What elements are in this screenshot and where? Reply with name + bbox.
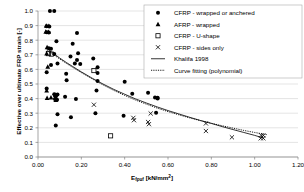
data-point-0-35 bbox=[74, 97, 78, 101]
data-point-0-43 bbox=[69, 115, 73, 119]
y-tick-label-4: 0.4 bbox=[13, 95, 33, 102]
legend-label-1: AFRP - wrapped bbox=[174, 21, 220, 28]
data-point-0-42 bbox=[56, 112, 60, 116]
data-point-0-19 bbox=[91, 56, 95, 60]
x-tick-label-1: 0.20 bbox=[67, 161, 95, 168]
y-tick-label-0: 0.0 bbox=[13, 153, 33, 160]
data-point-0-1 bbox=[52, 9, 56, 13]
x-tick-label-3: 0.60 bbox=[154, 161, 182, 168]
legend-label-3: CFRP - sides only bbox=[174, 44, 224, 51]
legend-label-2: CFRP - U-shape bbox=[174, 32, 220, 39]
data-point-0-16 bbox=[75, 58, 79, 62]
y-tick-label-1: 0.1 bbox=[13, 139, 33, 146]
data-point-0-21 bbox=[45, 70, 49, 74]
y-tick-label-2: 0.2 bbox=[13, 124, 33, 131]
data-point-0-15 bbox=[69, 55, 73, 59]
y-tick-label-3: 0.3 bbox=[13, 110, 33, 117]
x-axis-title: Efρuf [kN/mm2] bbox=[0, 174, 304, 182]
x-tick-label-2: 0.40 bbox=[111, 161, 139, 168]
chart-container: Effective over ultimate FRP strain [-] E… bbox=[0, 0, 304, 192]
legend-label-4: Khalifa 1998 bbox=[174, 55, 208, 62]
data-point-0-13 bbox=[49, 63, 53, 67]
data-point-0-7 bbox=[75, 31, 79, 35]
x-tick-label-5: 1.00 bbox=[241, 161, 269, 168]
data-point-0-11 bbox=[71, 42, 75, 46]
data-point-0-18 bbox=[78, 62, 82, 66]
x-tick-label-4: 0.80 bbox=[197, 161, 225, 168]
x-axis-title-subscript: fρuf bbox=[135, 177, 144, 182]
data-point-0-44 bbox=[122, 114, 126, 118]
data-point-0-32 bbox=[63, 95, 67, 99]
data-point-0-22 bbox=[64, 72, 68, 76]
data-point-0-41 bbox=[93, 111, 97, 115]
y-tick-label-5: 0.5 bbox=[13, 80, 33, 87]
data-point-0-12 bbox=[76, 51, 80, 55]
y-tick-label-6: 0.6 bbox=[13, 66, 33, 73]
y-tick-label-10: 1.0 bbox=[13, 7, 33, 14]
x-tick-label-0: 0.00 bbox=[24, 161, 52, 168]
data-point-legend-0 bbox=[156, 11, 160, 15]
data-point-0-28 bbox=[95, 89, 99, 93]
legend-label-0: CFRP - wrapped or anchered bbox=[174, 9, 255, 16]
x-axis-title-unit: [kN/mm bbox=[144, 174, 168, 181]
y-tick-label-8: 0.8 bbox=[13, 37, 33, 44]
data-point-0-24 bbox=[65, 78, 69, 82]
y-tick-label-7: 0.7 bbox=[13, 51, 33, 58]
data-point-0-10 bbox=[52, 52, 56, 56]
data-point-0-36 bbox=[130, 92, 134, 96]
data-point-0-45 bbox=[154, 111, 158, 115]
data-point-0-46 bbox=[54, 124, 58, 128]
data-point-0-26 bbox=[123, 80, 127, 84]
data-point-0-40 bbox=[156, 97, 160, 101]
data-point-0-17 bbox=[73, 62, 77, 66]
legend-label-5: Curve fitting (polynomial) bbox=[174, 67, 242, 74]
data-point-0-25 bbox=[96, 79, 100, 83]
data-point-0-37 bbox=[146, 91, 150, 95]
legend-marker-0 bbox=[156, 11, 160, 15]
x-tick-label-6: 1.20 bbox=[284, 161, 304, 168]
x-axis-title-close: ] bbox=[171, 174, 173, 181]
data-point-0-6 bbox=[54, 39, 58, 43]
data-point-0-0 bbox=[48, 9, 52, 13]
data-point-0-9 bbox=[49, 47, 53, 51]
data-point-0-14 bbox=[56, 62, 60, 66]
y-tick-label-9: 0.9 bbox=[13, 22, 33, 29]
